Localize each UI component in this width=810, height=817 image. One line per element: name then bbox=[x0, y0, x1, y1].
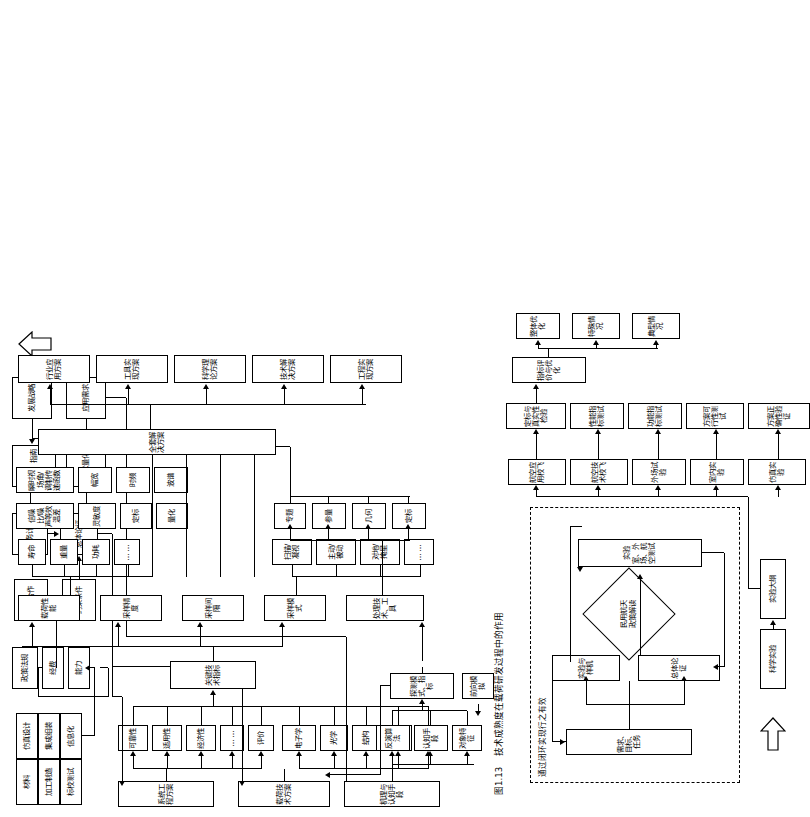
exp-test-field[interactable]: 外场试验 bbox=[632, 459, 686, 485]
solution-tool-implementation[interactable]: 工具实现方案 bbox=[96, 355, 168, 383]
system-engineering-plan[interactable]: 系统工程方案 bbox=[118, 781, 214, 807]
grid-cell-material[interactable]: 材料 bbox=[16, 759, 38, 805]
sa-child-sensitivity[interactable]: 灵敏度 bbox=[78, 503, 116, 529]
se-child-applicability[interactable]: 适用性 bbox=[152, 725, 182, 751]
loop-lab-field-aviation-test[interactable]: 实验室、外场、航空测试 bbox=[578, 539, 702, 567]
exp-evaluation-optimization[interactable]: 指标评价与优化 bbox=[512, 357, 586, 383]
group-sampling-accuracy[interactable]: 采样精度 bbox=[100, 595, 162, 621]
group-payload-performance[interactable]: 载荷性能 bbox=[18, 595, 80, 621]
si-child-time-frequency[interactable]: 时频 bbox=[116, 467, 150, 493]
group-sampling-interval[interactable]: 采样间隔 bbox=[182, 595, 244, 621]
sm-child-scan-stare[interactable]: 扫描/凝视 bbox=[272, 539, 312, 565]
se-child-evaluation[interactable]: 评价 bbox=[248, 725, 274, 751]
outcome-overall-optimization[interactable]: 整体优化 bbox=[516, 313, 560, 339]
plan-development-strategy[interactable]: 发展战略 bbox=[12, 377, 52, 419]
solution-engineering-implementation[interactable]: 工程实现方案 bbox=[330, 355, 402, 383]
sa-child-snr[interactable]: 信噪比/噪声等效温差 bbox=[16, 503, 74, 529]
sm-child-ellipsis: …… bbox=[404, 539, 434, 565]
grid-cell-simulation-design[interactable]: 仿真设计 bbox=[16, 713, 38, 759]
sa-child-quantization[interactable]: 量化 bbox=[156, 503, 188, 529]
mech-child-object-feature[interactable]: 对象特征 bbox=[452, 725, 482, 751]
forward-simulation[interactable]: 前向模拟 bbox=[462, 673, 494, 699]
exp-result-correctness[interactable]: 方案正确性验证 bbox=[748, 403, 810, 429]
exp-test-aviation-tech-flight[interactable]: 航空技术校飞 bbox=[570, 459, 628, 485]
policy-diamond-label: 民用航天 政策解读 bbox=[604, 586, 654, 642]
si-child-ifov-mtf[interactable]: 瞬时视场角/调制传递函数 bbox=[16, 467, 74, 493]
exp-result-feasibility[interactable]: 方案可行性测试 bbox=[686, 403, 744, 429]
closed-loop-label: 通过闭环实现行之有效 bbox=[536, 697, 547, 777]
grid-cell-integration-assembly[interactable]: 集成组装 bbox=[38, 713, 60, 759]
exp-outline[interactable]: 实验大纲 bbox=[760, 559, 786, 619]
grid-cell-calibration-test[interactable]: 标校测试 bbox=[60, 759, 82, 805]
detection-mode-indicator[interactable]: 探测模式、指标 bbox=[390, 673, 454, 699]
exp-result-performance-index[interactable]: 性能指标测试 bbox=[570, 403, 624, 429]
plan-application-demand[interactable]: 应用需求 bbox=[66, 377, 106, 419]
exp-result-calibration-validation[interactable]: 定标与真实性检验 bbox=[506, 403, 566, 429]
pp-child-power[interactable]: 功耗 bbox=[82, 539, 110, 565]
key-technical-indicator[interactable]: 关键技术指标 bbox=[170, 661, 256, 689]
right-arrow-marker bbox=[760, 717, 786, 751]
pt-child-electronics[interactable]: 电子学 bbox=[282, 725, 316, 751]
pt-child-optics[interactable]: 光学 bbox=[320, 725, 348, 751]
sm-child-nadir-occultation[interactable]: 对地/掩星 bbox=[360, 539, 400, 565]
payload-tech-plan[interactable]: 载荷技术方案 bbox=[238, 781, 330, 807]
exp-result-function-index[interactable]: 功能指标测试 bbox=[628, 403, 682, 429]
solution-industry-application[interactable]: 行业应用方案 bbox=[18, 355, 90, 383]
si-child-spectrum[interactable]: 波谱 bbox=[154, 467, 188, 493]
se-child-ellipsis: …… bbox=[220, 725, 244, 751]
loop-overall-demonstration[interactable]: 总体论证 bbox=[638, 655, 720, 681]
resource-policy[interactable]: 政策法规 bbox=[12, 647, 38, 689]
resource-funding[interactable]: 经费 bbox=[42, 647, 64, 689]
outcome-special-case[interactable]: 特殊情况 bbox=[572, 313, 620, 339]
mech-child-inversion-algorithm[interactable]: 反演算法 bbox=[376, 725, 410, 751]
sm-child-active-passive[interactable]: 主动/被动 bbox=[316, 539, 356, 565]
outcome-typical-case[interactable]: 典型情况 bbox=[632, 313, 680, 339]
pp-child-lifetime[interactable]: 寿命 bbox=[18, 539, 46, 565]
mech-child-cognition-means[interactable]: 认知手段 bbox=[414, 725, 448, 751]
loop-requirement[interactable]: 需求、目标、任务 bbox=[566, 729, 692, 755]
grid-cell-informatization[interactable]: 信息化 bbox=[60, 713, 82, 759]
pp-child-weight[interactable]: 重量 bbox=[50, 539, 78, 565]
exp-science-experiment[interactable]: 科学实验 bbox=[760, 629, 786, 689]
full-solution-plan[interactable]: 全套解决方案 bbox=[38, 429, 276, 455]
group-sampling-mode[interactable]: 采样模式 bbox=[264, 595, 326, 621]
pp-child-ellipsis: …… bbox=[114, 539, 140, 565]
sa-child-calibration[interactable]: 定标 bbox=[120, 503, 152, 529]
grid-cell-manufacturing[interactable]: 加工制造 bbox=[38, 759, 60, 805]
up-arrow-marker bbox=[18, 331, 52, 357]
exp-test-simulation[interactable]: 仿真实验 bbox=[748, 459, 806, 485]
exp-test-aviation-app-flight[interactable]: 航空应用校飞 bbox=[508, 459, 566, 485]
solution-technical[interactable]: 技术解决方案 bbox=[252, 355, 324, 383]
group-processing-tools[interactable]: 处理技术、工具 bbox=[346, 595, 424, 621]
si-child-swath[interactable]: 幅宽 bbox=[78, 467, 112, 493]
exp-test-indoor[interactable]: 室内实验 bbox=[690, 459, 744, 485]
se-child-economy[interactable]: 经济性 bbox=[186, 725, 216, 751]
mechanism-cognition[interactable]: 机理与认知手段 bbox=[344, 781, 440, 807]
solution-scientific-theory[interactable]: 科学理论方案 bbox=[174, 355, 246, 383]
